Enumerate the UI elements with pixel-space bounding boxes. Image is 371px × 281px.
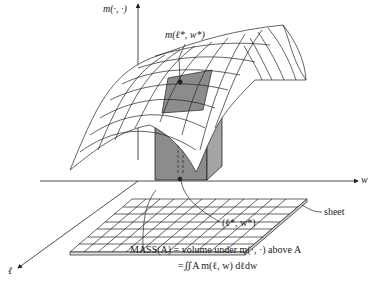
l-axis-label: ℓ [8,266,12,276]
base-point-label: (ℓ*, w*) [222,218,256,228]
peak-point-label: m(ℓ*, w*) [165,30,205,40]
density-surface [70,25,306,172]
mass-definition-line2: =∬A m(ℓ, w) dℓdw [178,261,257,271]
probability-surface-diagram: m(·, ·) w ℓ m(ℓ*, w*) (ℓ*, w*) sheet MAS… [0,0,371,281]
sheet-label: sheet [324,207,345,217]
vertical-axis-label: m(·, ·) [103,4,127,14]
diagram-graphics [0,0,371,281]
sheet-leader [302,205,322,212]
mass-definition-line1: MASS(A) = volume under m(·, ·) above A [130,245,301,255]
w-axis-label: w [361,175,368,185]
